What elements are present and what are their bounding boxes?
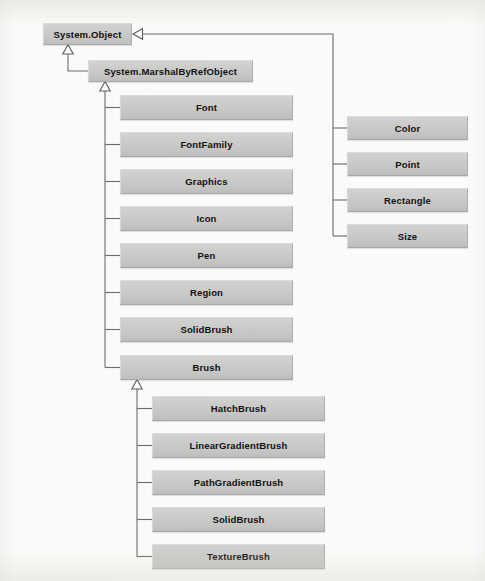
class-node-size[interactable]: Size	[347, 224, 468, 248]
class-node-label: PathGradientBrush	[194, 477, 284, 488]
undefined	[100, 82, 110, 92]
class-node-label: Brush	[192, 362, 220, 373]
class-node-label: SolidBrush	[212, 514, 264, 525]
class-node-system-marshalbyrefobject[interactable]: System.MarshalByRefObject	[88, 60, 253, 82]
class-node-label: Rectangle	[384, 194, 431, 205]
class-node-label: TextureBrush	[207, 551, 270, 562]
class-node-label: Pen	[198, 250, 216, 261]
class-node-point[interactable]: Point	[347, 152, 468, 176]
class-node-label: Font	[196, 102, 217, 113]
class-diagram: System.ObjectSystem.MarshalByRefObjectFo…	[0, 0, 485, 581]
class-node-label: Region	[190, 287, 223, 298]
undefined	[132, 380, 142, 390]
class-node-rectangle[interactable]: Rectangle	[347, 188, 468, 212]
class-node-label: HatchBrush	[211, 403, 266, 414]
class-node-system-object[interactable]: System.Object	[43, 23, 132, 45]
class-node-hatchbrush[interactable]: HatchBrush	[152, 396, 325, 421]
class-node-label: Size	[398, 230, 418, 241]
class-node-region[interactable]: Region	[120, 280, 293, 305]
class-node-label: FontFamily	[180, 139, 232, 150]
class-node-pathgradientbrush[interactable]: PathGradientBrush	[152, 470, 325, 495]
class-node-label: Point	[395, 158, 420, 169]
class-node-label: Icon	[196, 213, 216, 224]
class-node-label: System.MarshalByRefObject	[104, 65, 237, 76]
class-node-label: LinearGradientBrush	[190, 440, 288, 451]
class-node-solidbrush-top[interactable]: SolidBrush	[120, 317, 293, 342]
class-node-label: Graphics	[185, 176, 227, 187]
class-node-color[interactable]: Color	[347, 116, 468, 140]
class-node-label: SolidBrush	[180, 324, 232, 335]
class-node-fontfamily[interactable]: FontFamily	[120, 132, 293, 157]
arrowhead-left-system-object	[133, 29, 143, 39]
class-node-lineargradientbrush[interactable]: LinearGradientBrush	[152, 433, 325, 458]
class-node-label: Color	[395, 122, 421, 133]
class-node-font[interactable]: Font	[120, 95, 293, 120]
class-node-graphics[interactable]: Graphics	[120, 169, 293, 194]
class-node-brush[interactable]: Brush	[120, 355, 293, 380]
class-node-icon[interactable]: Icon	[120, 206, 293, 231]
class-node-texturebrush[interactable]: TextureBrush	[152, 544, 325, 569]
class-node-solidbrush-bottom[interactable]: SolidBrush	[152, 507, 325, 532]
class-node-pen[interactable]: Pen	[120, 243, 293, 268]
class-node-label: System.Object	[54, 28, 122, 39]
connector-marshalbyrefobject	[68, 54, 88, 71]
undefined	[63, 45, 73, 55]
